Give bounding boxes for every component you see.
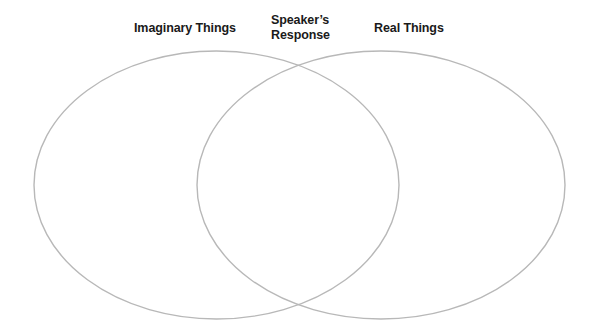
speakers-response-line2: Response bbox=[271, 28, 330, 43]
speakers-response-line1: Speaker’s bbox=[271, 13, 330, 28]
real-things-circle bbox=[197, 51, 565, 319]
venn-svg bbox=[0, 0, 598, 336]
real-things-label: Real Things bbox=[374, 21, 444, 36]
venn-diagram: Imaginary Things Speaker’s Response Real… bbox=[0, 0, 598, 336]
imaginary-things-circle bbox=[34, 51, 399, 319]
speakers-response-label: Speaker’s Response bbox=[271, 13, 330, 43]
imaginary-things-label: Imaginary Things bbox=[134, 21, 236, 36]
